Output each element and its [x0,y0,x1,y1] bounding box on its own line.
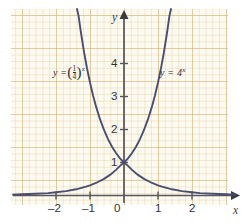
x-tick-label--1: –1 [82,203,95,215]
curve-y-equals-4-pow-x [13,9,171,195]
y-tick-label-2: 2 [111,124,117,136]
curve-label-4-pow-x: y = 4x [160,68,186,78]
y-tick-label-3: 3 [111,91,117,103]
paren-close: ) [76,64,81,80]
curve-label-text: y = 4 [160,67,182,78]
y-tick-label-1: 1 [111,157,117,169]
x-axis-label: x [233,205,238,217]
curve-label-one-fourth-pow-x: y =(14)x [53,65,85,82]
curve-y-equals-one-fourth-pow-x [77,9,235,195]
graph-canvas [0,0,246,223]
exponent-x: x [82,65,85,73]
curve-label-lead: y = [53,67,67,78]
y-axis-label: y [112,12,117,24]
exponential-functions-graph: y x –2 –1 0 1 2 1 2 3 4 y =(14)x y = 4x [0,0,246,223]
y-tick-label-4: 4 [111,58,117,70]
x-tick-label-2: 2 [189,203,195,215]
x-tick-label-0: 0 [114,203,120,215]
exponent-x: x [182,66,185,74]
x-tick-label-1: 1 [155,203,161,215]
x-axis-arrowhead [231,191,240,200]
x-tick-label--2: –2 [48,203,61,215]
y-axis-arrowhead [120,10,129,19]
